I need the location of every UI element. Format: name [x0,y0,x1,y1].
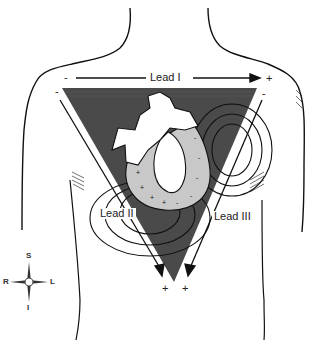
compass-left-label: L [50,278,55,286]
lead-iii-label: Lead III [212,211,253,222]
lead-iii-positive-sign: + [182,283,188,294]
compass-right-label: R [3,278,9,286]
lead-i-label: Lead I [148,72,183,83]
compass-inferior-label: I [27,304,29,312]
lead-iii-negative-sign: - [262,88,266,99]
lead-i-negative-sign: - [64,72,68,83]
anatomical-compass [10,262,48,302]
lead-i-positive-sign: + [266,73,272,84]
lead-ii-label: Lead II [98,208,136,219]
einthoven-triangle-diagram: +++ +-- --- [0,0,327,347]
svg-text:+: + [140,184,144,191]
compass-superior-label: S [26,252,31,260]
lead-ii-positive-sign: + [162,283,168,294]
svg-text:+: + [150,194,154,201]
svg-text:+: + [162,199,166,206]
lead-ii-negative-sign: - [55,86,59,97]
svg-text:+: + [136,169,140,176]
